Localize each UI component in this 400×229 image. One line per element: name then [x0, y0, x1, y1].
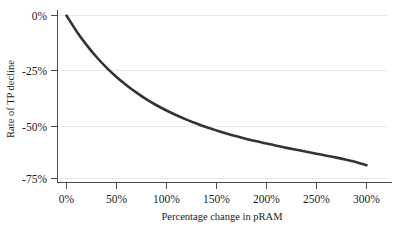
y-axis-title: Rate of TP decline — [5, 60, 16, 138]
chart-figure: 0% -25% -50% -75% 0% 50% 100% 150% 200% … — [0, 0, 400, 229]
x-tick-label-150: 150% — [203, 193, 230, 205]
y-tick-label-25: -25% — [22, 65, 47, 77]
x-tick-label-200: 200% — [253, 193, 280, 205]
x-tick-label-0: 0% — [59, 193, 75, 205]
chart-canvas: 0% -25% -50% -75% 0% 50% 100% 150% 200% … — [0, 0, 400, 229]
x-tick-label-250: 250% — [303, 193, 330, 205]
x-axis-title: Percentage change in pRAM — [161, 211, 283, 222]
x-tick-label-100: 100% — [153, 193, 180, 205]
y-tick-label-50: -50% — [22, 121, 47, 133]
y-tick-label-0: 0% — [32, 10, 48, 22]
y-tick-label-75: -75% — [22, 173, 47, 185]
x-tick-label-300: 300% — [353, 193, 380, 205]
x-tick-label-50: 50% — [106, 193, 128, 205]
